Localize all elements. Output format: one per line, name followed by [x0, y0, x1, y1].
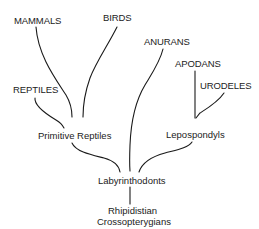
- branch-reptiles: [35, 98, 64, 128]
- label-anurans: ANURANS: [144, 36, 190, 47]
- phylogeny-diagram: MAMMALS BIRDS REPTILES Primitive Reptile…: [0, 0, 259, 229]
- label-primitive-reptiles: Primitive Reptiles: [38, 130, 112, 141]
- label-reptiles: REPTILES: [13, 84, 58, 95]
- branch-lepospondyls-to-labyrinthodonts: [139, 142, 192, 172]
- label-urodeles: URODELES: [200, 80, 251, 91]
- label-lepospondyls: Lepospondyls: [166, 129, 225, 140]
- label-birds: BIRDS: [103, 12, 132, 23]
- branch-birds: [83, 27, 117, 117]
- branch-primitive-reptiles-to-labyrinthodonts: [72, 143, 120, 172]
- branch-mammals: [36, 27, 72, 117]
- label-apodans: APODANS: [175, 58, 221, 69]
- label-labyrinthodonts: Labyrinthodonts: [98, 175, 166, 186]
- label-crossopterygians: Crossopterygians: [97, 216, 171, 227]
- branch-anurans: [130, 49, 163, 171]
- branch-urodeles: [196, 93, 224, 118]
- label-rhipidistian: Rhipidistian: [108, 205, 157, 216]
- label-mammals: MAMMALS: [14, 15, 61, 26]
